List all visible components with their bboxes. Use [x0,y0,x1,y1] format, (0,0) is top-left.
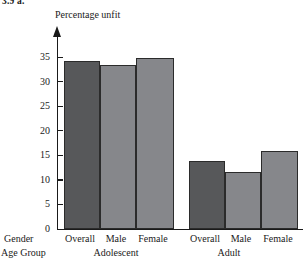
bar-adolescent-overall [64,61,100,229]
y-tick-label-25: 25 [28,101,50,111]
plot-area [58,57,298,229]
x-axis-line [57,229,303,230]
y-tick-label-20: 20 [28,126,50,136]
x-label-gender-1: Male [98,233,134,244]
y-axis-title: Percentage unfit [55,9,120,20]
x-label-gender-3: Overall [185,233,225,244]
axis-row-label-age-group: Age Group [1,247,46,258]
y-tick-label-30: 30 [28,77,50,87]
bar-chart-figure: 3.9 a. Percentage unfit 05101520253035 G… [0,0,304,273]
x-label-group-0: Adolescent [86,247,146,258]
x-label-group-1: Adult [208,247,250,258]
y-tick-label-35: 35 [28,52,50,62]
bar-adolescent-male [100,65,136,229]
axis-row-label-gender: Gender [4,233,33,244]
x-label-gender-5: Female [257,233,299,244]
bar-adolescent-female [136,58,174,229]
bar-adult-male [225,172,261,229]
x-label-gender-2: Female [132,233,174,244]
y-tick-label-5: 5 [28,199,50,209]
exercise-label: 3.9 a. [2,0,25,7]
x-label-gender-4: Male [223,233,259,244]
x-label-gender-0: Overall [60,233,100,244]
bar-adult-overall [189,161,225,229]
y-tick-label-15: 15 [28,150,50,160]
y-tick-label-10: 10 [28,175,50,185]
bar-adult-female [261,151,298,229]
